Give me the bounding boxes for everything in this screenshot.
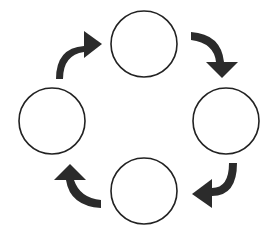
node-bottom [111,158,177,224]
node-top [111,11,177,77]
arrow-left-to-top-icon [56,31,102,79]
node-right [193,88,259,154]
arrow-bottom-to-left-icon [54,164,101,208]
arrow-top-to-right-icon [191,32,238,78]
node-left [19,88,85,154]
cycle-diagram [0,0,276,234]
arrow-right-to-bottom-icon [192,163,237,208]
